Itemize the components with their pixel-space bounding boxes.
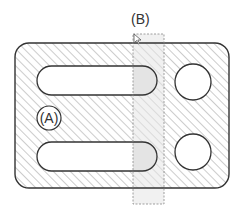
diagram-canvas: (B) (A) — [0, 0, 239, 212]
lower-hole[interactable] — [175, 134, 211, 170]
label-a-callout: (A) — [37, 106, 61, 130]
selection-box-fill — [133, 34, 164, 204]
upper-hole[interactable] — [175, 64, 211, 100]
label-b: (B) — [131, 11, 150, 27]
label-a: (A) — [40, 110, 59, 126]
